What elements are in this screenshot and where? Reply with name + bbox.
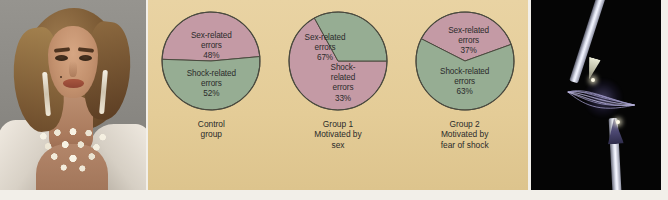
pie-chart-control-group: Sex-related errors 48% Shock-related err… <box>150 9 272 140</box>
nose <box>69 61 77 77</box>
chart-caption-3: Group 2 Motivated by fear of shock <box>441 119 489 150</box>
arc-hotspot-upper <box>591 78 595 82</box>
pie-svg-2 <box>286 9 390 113</box>
lips <box>63 79 84 88</box>
pie-graphic-2: Sex-related errors 67% Shock- related er… <box>286 9 390 113</box>
chart-caption-1: Control group <box>198 119 225 140</box>
arc-hotspot-lower <box>616 120 620 124</box>
left-photo-panel <box>0 0 146 190</box>
pie-svg-1 <box>159 9 263 113</box>
pie-graphic-1: Sex-related errors 48% Shock-related err… <box>159 9 263 113</box>
eye-left <box>55 55 68 61</box>
pie-graphic-3: Sex-related errors 37% Shock-related err… <box>413 9 517 113</box>
pie-svg-3 <box>413 9 517 113</box>
pie-chart-group-1: Sex-related errors 67% Shock- related er… <box>277 9 399 150</box>
right-photo-panel <box>531 0 661 190</box>
beauty-mark <box>60 76 62 78</box>
pie-charts-row: Sex-related errors 48% Shock-related err… <box>148 0 528 190</box>
pie-chart-group-2: Sex-related errors 37% Shock-related err… <box>404 9 526 150</box>
chart-caption-2: Group 1 Motivated by sex <box>314 119 361 150</box>
pie-charts-panel: Sex-related errors 48% Shock-related err… <box>148 0 528 190</box>
figure-root: Sex-related errors 48% Shock-related err… <box>0 0 668 200</box>
eye-right <box>79 55 92 61</box>
